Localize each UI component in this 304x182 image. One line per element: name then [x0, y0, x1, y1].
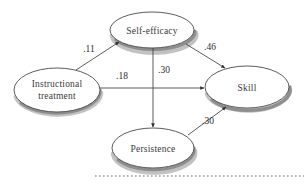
coefficient-self-efficacy-to-persistence: .30 [158, 65, 170, 75]
node-label-self-efficacy: Self-efficacy [126, 26, 178, 36]
node-label-persistence: Persistence [131, 144, 176, 154]
diagram-canvas: Self-efficacy Instructional treatment Sk… [0, 0, 304, 182]
node-label-instructional-treatment-line1: Instructional [32, 79, 83, 89]
coefficient-persistence-to-skill: .30 [202, 116, 214, 126]
coefficient-instructional-treatment-to-skill: .18 [116, 71, 128, 81]
node-label-skill: Skill [238, 83, 257, 93]
path-diagram-figure: Self-efficacy Instructional treatment Sk… [0, 0, 304, 182]
coefficient-instructional-treatment-to-self-efficacy: .11 [83, 44, 95, 54]
node-instructional-treatment [14, 68, 100, 112]
coefficient-self-efficacy-to-skill: .46 [204, 42, 216, 52]
node-label-instructional-treatment-line2: treatment [38, 91, 76, 101]
